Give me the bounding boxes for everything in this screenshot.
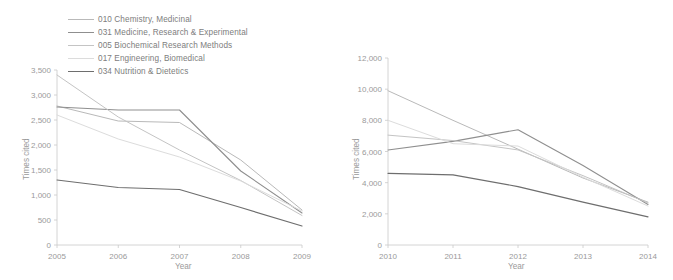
legend-item: 010 Chemistry, Medicinal xyxy=(68,14,248,25)
y-axis-tick-label: 10,000 xyxy=(358,85,383,94)
legend-item-label: 034 Nutrition & Dietetics xyxy=(98,67,188,76)
x-axis-tick-label: 2005 xyxy=(48,252,66,261)
y-axis-tick-label: 1,000 xyxy=(31,191,52,200)
chart-legend: 010 Chemistry, Medicinal 031 Medicine, R… xyxy=(68,14,248,77)
x-axis-tick-label: 2013 xyxy=(574,252,592,261)
x-axis-tick-label: 2009 xyxy=(293,252,311,261)
y-axis-tick-label: 2,000 xyxy=(31,141,52,150)
x-axis-tick-label: 2010 xyxy=(379,252,397,261)
y-axis-tick-label: 6,000 xyxy=(362,148,383,157)
series-line xyxy=(388,130,648,205)
right-chart-plot: 02,0004,0006,0008,00010,00012,0002010201… xyxy=(358,54,658,261)
left-chart-y-axis-title: Times cited xyxy=(22,138,31,180)
y-axis-tick-label: 4,000 xyxy=(362,179,383,188)
y-axis-tick-label: 0 xyxy=(378,241,383,250)
y-axis-tick-label: 0 xyxy=(47,241,52,250)
x-axis-tick-label: 2012 xyxy=(509,252,527,261)
left-chart-plot: 05001,0001,5002,0002,5003,0003,500200520… xyxy=(31,66,311,261)
x-axis-tick-label: 2014 xyxy=(639,252,657,261)
y-axis-tick-label: 3,500 xyxy=(31,66,52,75)
legend-item-label: 017 Engineering, Biomedical xyxy=(98,54,205,63)
legend-item: 031 Medicine, Research & Experimental xyxy=(68,27,248,38)
legend-item-label: 005 Biochemical Research Methods xyxy=(98,41,232,50)
legend-color-swatch xyxy=(68,19,94,20)
legend-color-swatch xyxy=(68,71,94,72)
x-axis-tick-label: 2007 xyxy=(171,252,189,261)
series-line xyxy=(388,173,648,217)
legend-item: 034 Nutrition & Dietetics xyxy=(68,66,248,77)
series-line xyxy=(57,115,302,211)
right-chart-y-axis-title: Times cited xyxy=(352,138,361,180)
legend-color-swatch xyxy=(68,45,94,46)
legend-item: 017 Engineering, Biomedical xyxy=(68,53,248,64)
x-axis-tick-label: 2008 xyxy=(232,252,250,261)
legend-color-swatch xyxy=(68,58,94,59)
left-chart-x-axis-title: Year xyxy=(175,262,192,271)
series-line xyxy=(57,75,302,216)
y-axis-tick-label: 2,000 xyxy=(362,210,383,219)
x-axis-tick-label: 2011 xyxy=(444,252,462,261)
legend-item-label: 031 Medicine, Research & Experimental xyxy=(98,28,248,37)
y-axis-tick-label: 3,000 xyxy=(31,91,52,100)
series-line xyxy=(388,120,648,206)
legend-item: 005 Biochemical Research Methods xyxy=(68,40,248,51)
y-axis-tick-label: 500 xyxy=(38,216,52,225)
legend-color-swatch xyxy=(68,32,94,33)
y-axis-tick-label: 8,000 xyxy=(362,116,383,125)
y-axis-tick-label: 12,000 xyxy=(358,54,383,63)
right-chart-x-axis-title: Year xyxy=(508,262,525,271)
y-axis-tick-label: 1,500 xyxy=(31,166,52,175)
series-line xyxy=(57,180,302,226)
y-axis-tick-label: 2,500 xyxy=(31,116,52,125)
x-axis-tick-label: 2006 xyxy=(109,252,127,261)
legend-item-label: 010 Chemistry, Medicinal xyxy=(98,15,192,24)
